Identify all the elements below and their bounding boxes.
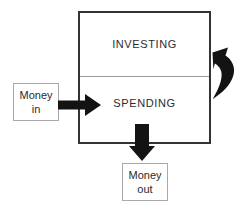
curved-arrow-down-icon xyxy=(208,46,240,102)
node-money-in-line2: in xyxy=(32,102,41,116)
arrow-down-icon xyxy=(128,124,156,162)
money-flow-diagram: INVESTING SPENDING Money in Money out xyxy=(0,0,243,209)
node-money-out-line2: out xyxy=(137,182,152,196)
section-divider xyxy=(80,76,209,77)
node-money-in: Money in xyxy=(13,83,59,121)
section-label-investing: INVESTING xyxy=(78,38,211,50)
arrow-right-icon xyxy=(58,92,102,118)
node-money-in-line1: Money xyxy=(19,88,52,102)
node-money-out: Money out xyxy=(122,163,168,201)
node-money-out-line1: Money xyxy=(128,168,161,182)
